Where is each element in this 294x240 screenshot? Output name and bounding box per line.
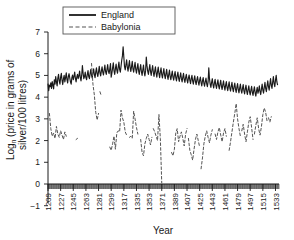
series-line-babylonia xyxy=(215,128,226,142)
series-line-england xyxy=(48,47,278,96)
legend-label-england: England xyxy=(101,10,134,20)
x-tick-label: 1533 xyxy=(272,192,281,210)
data-series-group xyxy=(48,47,278,183)
x-tick-label: 1497 xyxy=(246,192,255,210)
series-line-babylonia xyxy=(254,108,267,135)
x-tick-label: 1461 xyxy=(221,192,230,210)
y-tick-label: 5 xyxy=(35,70,40,80)
y-tick-label: 3 xyxy=(35,114,40,124)
x-tick-label: 1389 xyxy=(171,192,180,210)
price-history-line-chart: −101234567 12091227124512631281129913171… xyxy=(0,0,294,240)
x-tick-label: 1515 xyxy=(259,192,268,210)
series-line-babylonia xyxy=(201,130,212,169)
series-line-babylonia xyxy=(100,92,101,96)
legend: England Babylonia xyxy=(63,7,175,34)
x-tick-label: 1353 xyxy=(145,192,154,210)
legend-label-babylonia: Babylonia xyxy=(101,22,141,32)
series-line-babylonia xyxy=(268,117,271,122)
x-tick-label: 1317 xyxy=(120,192,129,210)
svg-text:Logn (price in grams of: Logn (price in grams of xyxy=(5,59,17,160)
y-tick-label: 4 xyxy=(35,92,40,102)
series-line-babylonia xyxy=(129,111,137,138)
x-tick-label: 1263 xyxy=(82,192,91,210)
x-axis-ticks: 1209122712451263128112991317133513531371… xyxy=(44,184,280,211)
y-axis-title-line2: silver/100 litres) xyxy=(17,80,28,150)
series-line-babylonia xyxy=(153,115,161,183)
x-tick-label: 1335 xyxy=(133,192,142,210)
y-axis-title-log: Log xyxy=(5,143,16,160)
series-line-babylonia xyxy=(242,117,253,142)
chart-figure: −101234567 12091227124512631281129913171… xyxy=(0,0,294,240)
x-tick-label: 1299 xyxy=(107,192,116,210)
series-line-babylonia xyxy=(188,134,199,160)
x-axis-title: Year xyxy=(153,225,174,236)
series-line-babylonia xyxy=(76,138,77,139)
series-line-babylonia xyxy=(49,113,66,139)
x-tick-label: 1479 xyxy=(234,192,243,210)
x-tick-label: 1425 xyxy=(196,192,205,210)
series-line-babylonia xyxy=(141,134,152,156)
x-tick-label: 1281 xyxy=(95,192,104,210)
x-tick-label: 1443 xyxy=(208,192,217,210)
x-tick-label: 1227 xyxy=(57,192,66,210)
y-tick-label: 7 xyxy=(35,27,40,37)
y-tick-label: 2 xyxy=(35,136,40,146)
series-line-babylonia xyxy=(110,110,127,150)
x-tick-label: 1209 xyxy=(44,192,53,210)
x-tick-label: 1371 xyxy=(158,192,167,210)
y-tick-label: 1 xyxy=(35,157,40,167)
y-axis-title-rest: (price in grams of xyxy=(5,59,16,139)
y-tick-label: −1 xyxy=(30,201,40,211)
series-line-babylonia xyxy=(172,129,187,156)
y-axis-title: Logn (price in grams of silver/100 litre… xyxy=(5,59,28,160)
y-axis-ticks: −101234567 xyxy=(30,27,48,211)
x-tick-label: 1407 xyxy=(183,192,192,210)
x-tick-label: 1245 xyxy=(69,192,78,210)
y-tick-label: 0 xyxy=(35,179,40,189)
y-tick-label: 6 xyxy=(35,49,40,59)
series-line-babylonia xyxy=(229,104,240,151)
